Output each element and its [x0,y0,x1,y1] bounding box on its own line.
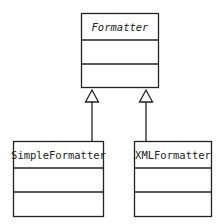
class-name: Formatter [92,21,150,33]
uml-diagram: Formatter SimpleFormatter XMLFormatter [0,0,222,224]
generalization-xmlformatter [140,90,153,142]
class-name: XMLFormatter [135,149,211,161]
class-xmlformatter[interactable]: XMLFormatter [135,142,212,217]
hollow-triangle-arrowhead-icon [140,90,153,102]
class-name: SimpleFormatter [11,149,106,161]
class-simpleformatter[interactable]: SimpleFormatter [11,142,106,217]
hollow-triangle-arrowhead-icon [86,90,99,102]
class-formatter[interactable]: Formatter [82,14,159,88]
generalization-simpleformatter [86,90,99,142]
